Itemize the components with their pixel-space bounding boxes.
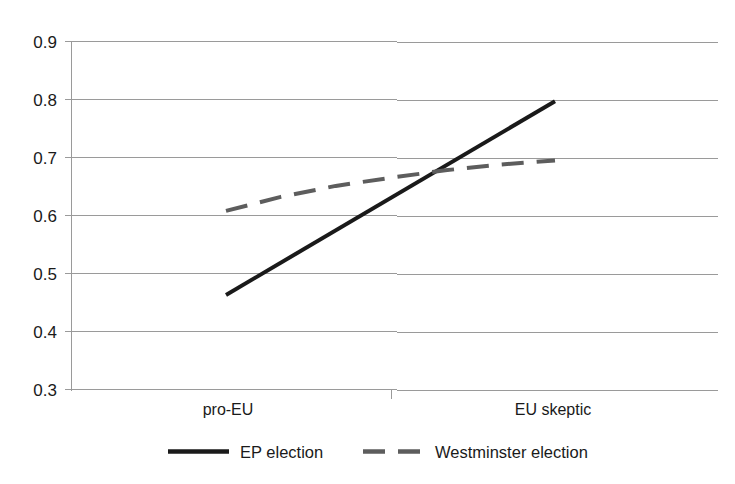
ytick-label-0.4: 0.4 — [33, 323, 57, 342]
x-axis-tick-labels: pro-EU EU skeptic — [203, 401, 592, 418]
y-axis-tick-labels: 0.9 0.8 0.7 0.6 0.5 0.4 0.3 — [33, 33, 57, 400]
ytick-label-0.3: 0.3 — [33, 381, 57, 400]
xtick-label-eu-skeptic: EU skeptic — [515, 401, 591, 418]
ytick-label-0.9: 0.9 — [33, 33, 57, 52]
chart-legend: EP election Westminster election — [168, 443, 588, 461]
y-axis-ticks — [65, 42, 71, 390]
ytick-label-0.8: 0.8 — [33, 91, 57, 110]
chart-container: 0.9 0.8 0.7 0.6 0.5 0.4 0.3 pro-EU EU sk… — [0, 0, 735, 484]
line-chart: 0.9 0.8 0.7 0.6 0.5 0.4 0.3 pro-EU EU sk… — [0, 0, 735, 484]
ytick-label-0.6: 0.6 — [33, 207, 57, 226]
ytick-label-0.5: 0.5 — [33, 265, 57, 284]
legend-label-ep-election: EP election — [240, 443, 323, 461]
legend-label-westminster-election: Westminster election — [435, 443, 588, 461]
xtick-label-pro-eu: pro-EU — [203, 401, 254, 418]
ytick-label-0.7: 0.7 — [33, 149, 57, 168]
